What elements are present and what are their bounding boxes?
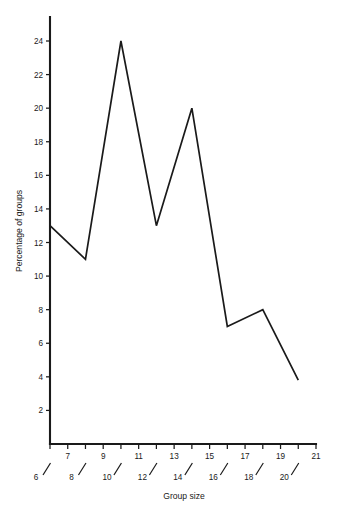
- y-tick-label: 2: [38, 406, 43, 415]
- y-tick-label: 16: [34, 171, 44, 180]
- y-tick-label: 6: [38, 339, 43, 348]
- x-tick-label-upper: 9: [101, 452, 106, 461]
- x-axis-leader-lines: [43, 463, 299, 475]
- x-tick-label-lower: 12: [138, 473, 148, 482]
- x-tick-leader-line: [256, 463, 263, 475]
- x-tick-leader-line: [43, 463, 51, 475]
- y-tick-label: 10: [34, 272, 44, 281]
- y-tick-label: 18: [34, 138, 44, 147]
- x-tick-label-lower: 20: [280, 473, 290, 482]
- y-axis-title: Percentage of groups: [14, 190, 24, 272]
- y-tick-label: 4: [38, 373, 43, 382]
- x-tick-label-lower: 8: [69, 473, 74, 482]
- x-tick-label-upper: 11: [134, 452, 143, 461]
- x-tick-label-upper: 13: [170, 452, 180, 461]
- x-tick-leader-line: [291, 463, 299, 475]
- x-tick-label-upper: 15: [205, 452, 215, 461]
- x-tick-leader-line: [114, 463, 122, 475]
- y-tick-label: 20: [34, 104, 44, 113]
- x-tick-label-lower: 6: [34, 473, 39, 482]
- y-tick-label: 24: [34, 37, 44, 46]
- y-tick-label: 22: [34, 71, 44, 80]
- x-tick-leader-line: [185, 463, 193, 475]
- x-tick-leader-line: [78, 463, 86, 475]
- x-tick-label-upper: 17: [241, 452, 251, 461]
- x-tick-leader-line: [149, 463, 157, 475]
- x-axis-tick-labels-upper: 79111315171921: [65, 452, 321, 461]
- line-chart-plot: 24681012141618202224 79111315171921 6810…: [0, 0, 341, 525]
- x-axis-title: Group size: [163, 491, 205, 501]
- x-tick-label-upper: 21: [311, 452, 321, 461]
- y-tick-label: 12: [34, 239, 44, 248]
- y-tick-label: 14: [34, 205, 44, 214]
- y-tick-label: 8: [38, 306, 43, 315]
- x-tick-label-lower: 14: [173, 473, 183, 482]
- x-tick-label-lower: 16: [209, 473, 219, 482]
- x-tick-label-lower: 18: [244, 473, 254, 482]
- x-tick-leader-line: [220, 463, 228, 475]
- data-series-line: [50, 41, 298, 380]
- x-tick-label-lower: 10: [102, 473, 112, 482]
- y-axis-tick-labels: 24681012141618202224: [34, 37, 44, 415]
- x-tick-label-upper: 19: [276, 452, 286, 461]
- chart-figure: 24681012141618202224 79111315171921 6810…: [0, 0, 341, 525]
- x-tick-label-upper: 7: [65, 452, 70, 461]
- x-axis-tick-labels-lower: 68101214161820: [34, 473, 290, 482]
